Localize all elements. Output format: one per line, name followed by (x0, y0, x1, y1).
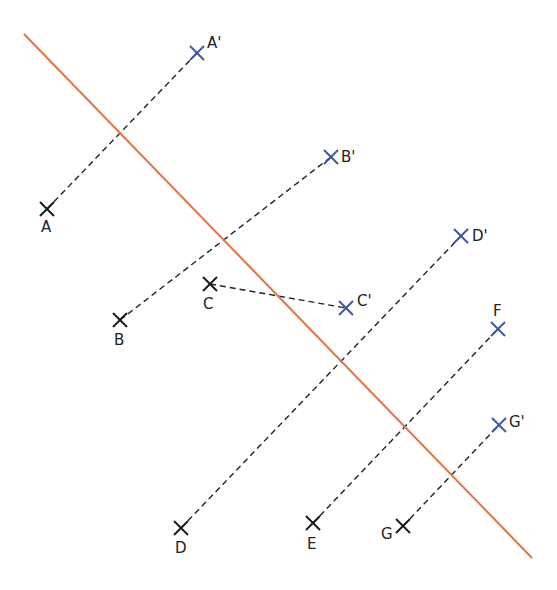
point-label: G' (509, 413, 525, 431)
point-label: C (203, 295, 213, 313)
segment-A-A2 (47, 53, 197, 209)
symmetry-axis (24, 34, 532, 558)
symmetry-diagram: AA'BB'CC'DD'EFGG' (0, 0, 557, 590)
point-C2: C' (339, 292, 372, 315)
point-label: A (41, 218, 52, 236)
point-label: G (381, 525, 393, 543)
point-D2: D' (454, 227, 488, 245)
point-label: D (175, 539, 187, 557)
point-label: A' (207, 34, 221, 52)
point-D: D (174, 521, 188, 557)
point-label: B (114, 331, 124, 349)
point-label: B' (341, 148, 355, 166)
point-C: C (203, 277, 217, 313)
point-label: C' (357, 292, 372, 310)
segment-D-D2 (181, 236, 461, 528)
point-G: G (381, 519, 410, 543)
point-label: D' (472, 227, 488, 245)
point-A2: A' (190, 34, 221, 60)
point-G2: G' (492, 413, 525, 432)
point-label: F (493, 302, 502, 320)
point-label: E (307, 535, 316, 553)
point-E: E (306, 516, 320, 553)
point-B2: B' (324, 148, 355, 166)
segment-B-B2 (120, 157, 331, 320)
points: AA'BB'CC'DD'EFGG' (40, 34, 525, 557)
point-A: A (40, 202, 54, 236)
point-B: B (113, 313, 127, 349)
point-F: F (491, 302, 505, 336)
